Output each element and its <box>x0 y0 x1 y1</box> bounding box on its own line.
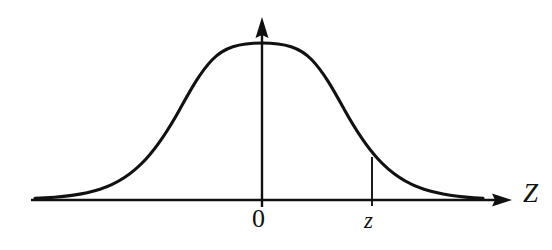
vertical-axis-arrowhead <box>256 17 269 38</box>
origin-label: 0 <box>252 206 265 232</box>
normal-curve-diagram <box>0 0 552 250</box>
z-axis-label: Z <box>523 180 538 207</box>
horizontal-axis-arrowhead <box>492 194 512 207</box>
normal-distribution-figure: 0 z Z <box>0 0 552 250</box>
bell-curve-path <box>35 43 483 198</box>
z-value-label: z <box>364 209 373 232</box>
